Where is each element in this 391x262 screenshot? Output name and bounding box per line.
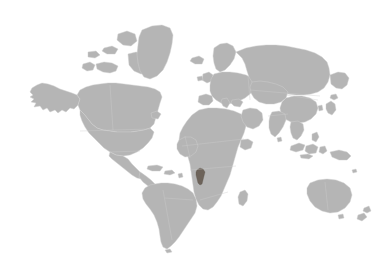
world-map-figure (0, 0, 391, 262)
landmass-ireland[interactable] (197, 76, 203, 81)
world-map-svg[interactable] (0, 0, 391, 262)
landmass-lesser-antilles[interactable] (178, 173, 183, 178)
landmass-tasmania[interactable] (338, 214, 344, 219)
landmass-pacific-islets[interactable] (352, 169, 357, 173)
landmass-iberia[interactable] (198, 94, 213, 105)
landmass-sri-lanka[interactable] (277, 137, 282, 142)
landmass-korea[interactable] (318, 105, 323, 111)
